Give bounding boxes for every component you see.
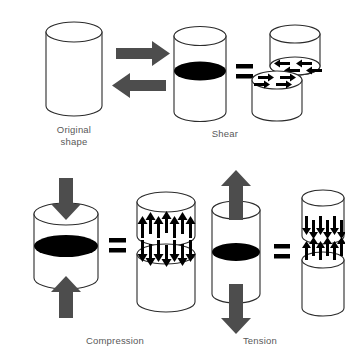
- shear-equals-sign: [236, 64, 253, 79]
- original-cylinder: [38, 18, 110, 122]
- caption-tension: Tension: [215, 335, 305, 347]
- panel-tension: [190, 168, 345, 336]
- shear-failure-plane: [174, 62, 226, 81]
- compression-split-lower: [137, 240, 196, 312]
- tension-split-upper: [302, 190, 345, 244]
- compression-failure-plane: [34, 235, 98, 257]
- caption-original-shape: Original shape: [28, 124, 120, 148]
- shear-split-lower: [252, 71, 302, 121]
- panel-original-shape: [38, 18, 110, 122]
- shear-arrow-left: [112, 73, 166, 98]
- panel-compression: [22, 178, 182, 328]
- caption-shear: Shear: [180, 128, 270, 140]
- compression-split-upper: [137, 192, 196, 246]
- panel-shear: [112, 18, 345, 130]
- tension-failure-plane: [212, 243, 260, 261]
- tension-split-lower: [302, 237, 345, 316]
- tension-equals-sign: [274, 244, 290, 259]
- caption-compression: Compression: [60, 335, 170, 347]
- stress-diagram: Original shape: [0, 0, 345, 363]
- shear-main-cylinder: [174, 27, 226, 122]
- shear-arrow-right: [116, 41, 170, 66]
- compression-equals-sign: [109, 238, 126, 253]
- shear-split-upper: [270, 25, 322, 75]
